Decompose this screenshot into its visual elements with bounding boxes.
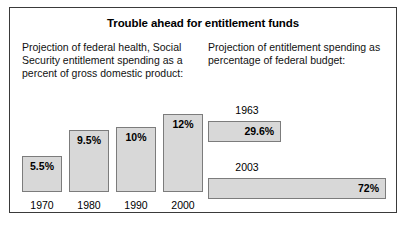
bar-label-2000: 2000 (160, 199, 206, 211)
bar-2003: 72% (208, 178, 386, 199)
gdp-bar-chart: 5.5% 1970 9.5% 1980 10% 1990 12% 2000 (22, 106, 204, 211)
left-panel-caption: Projection of federal health, Social Sec… (22, 41, 204, 81)
bar-value-1963: 29.6% (244, 125, 274, 137)
bar-label-1980: 1980 (66, 199, 112, 211)
bar-value-1970: 5.5% (23, 160, 61, 172)
budget-bar-chart: 1963 29.6% 2003 72% (208, 104, 394, 212)
bar-1963: 29.6% (208, 121, 281, 142)
bar-2000: 12% (163, 114, 203, 192)
bar-1990: 10% (116, 127, 156, 192)
bar-label-1970: 1970 (19, 199, 65, 211)
bar-1980: 9.5% (69, 130, 109, 192)
bar-value-2000: 12% (164, 118, 202, 130)
right-panel: Projection of entitlement spending as pe… (208, 41, 388, 67)
bar-value-2003: 72% (358, 182, 379, 194)
bar-label-1963: 1963 (208, 104, 286, 116)
right-panel-caption: Projection of entitlement spending as pe… (208, 41, 388, 67)
bar-value-1990: 10% (117, 131, 155, 143)
page-title: Trouble ahead for entitlement funds (10, 17, 396, 29)
infographic-frame: Trouble ahead for entitlement funds Proj… (9, 7, 397, 213)
bar-label-2003: 2003 (208, 161, 286, 173)
bar-label-1990: 1990 (113, 199, 159, 211)
bar-value-1980: 9.5% (70, 134, 108, 146)
bar-1970: 5.5% (22, 156, 62, 192)
left-panel: Projection of federal health, Social Sec… (22, 41, 204, 81)
